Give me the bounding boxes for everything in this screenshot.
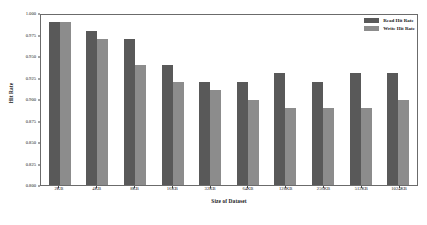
y-axis-tick-label: 0.850: [26, 141, 36, 146]
bar[interactable]: [162, 65, 173, 185]
legend-item[interactable]: Write Hit Rate: [364, 26, 415, 31]
x-axis-tick-label: 16KB: [167, 187, 178, 192]
x-axis-tick-label: 32KB: [205, 187, 216, 192]
x-axis-tick-cell: 256KB: [305, 187, 343, 197]
bar[interactable]: [398, 100, 409, 185]
x-axis-tick-cell: 2KB: [40, 187, 78, 197]
y-axis-tick-label: 0.825: [26, 162, 36, 167]
x-axis-tick-cell: 8KB: [116, 187, 154, 197]
bar[interactable]: [135, 65, 146, 185]
bar[interactable]: [86, 31, 97, 185]
bar[interactable]: [387, 73, 398, 185]
x-axis-tick-label: 8KB: [130, 187, 139, 192]
x-axis-tick-cell: 128KB: [267, 187, 305, 197]
x-axis-tick-label: 1024KB: [391, 187, 407, 192]
x-axis-tick-cell: 32KB: [191, 187, 229, 197]
legend-label: Write Hit Rate: [383, 26, 415, 31]
y-axis-tick-label: 0.950: [26, 55, 36, 60]
bar-group: [79, 15, 117, 185]
x-axis-tick-cell: 64KB: [229, 187, 267, 197]
bar[interactable]: [248, 100, 259, 185]
legend-swatch: [364, 18, 379, 23]
y-axis-tick-labels: 0.8000.8250.8500.8750.9000.9250.9500.975…: [14, 14, 38, 186]
x-axis-tick-cell: 1024KB: [380, 187, 418, 197]
y-axis-tick-label: 1.000: [26, 12, 36, 17]
plot-area: [40, 14, 418, 186]
y-axis-tick-label: 0.975: [26, 33, 36, 38]
bar-group: [342, 15, 380, 185]
x-axis-tick-labels: 2KB4KB8KB16KB32KB64KB128KB256KB512KB1024…: [40, 187, 418, 197]
chart-legend: Read Hit RateWrite Hit Rate: [364, 18, 415, 31]
bar[interactable]: [361, 108, 372, 185]
bar[interactable]: [312, 82, 323, 185]
bar-group: [116, 15, 154, 185]
x-axis-tick-cell: 16KB: [153, 187, 191, 197]
bar[interactable]: [199, 82, 210, 185]
bar-group: [191, 15, 229, 185]
legend-swatch: [364, 26, 379, 31]
bars-layer: [41, 15, 417, 185]
bar[interactable]: [274, 73, 285, 185]
bar-group: [41, 15, 79, 185]
bar[interactable]: [124, 39, 135, 185]
bar[interactable]: [285, 108, 296, 185]
bar-group: [267, 15, 305, 185]
bar[interactable]: [350, 73, 361, 185]
bar[interactable]: [323, 108, 334, 185]
bar[interactable]: [210, 90, 221, 185]
bar-group: [154, 15, 192, 185]
bar[interactable]: [237, 82, 248, 185]
x-axis-title: Size of Dataset: [40, 198, 418, 204]
legend-label: Read Hit Rate: [383, 18, 414, 23]
bar-group: [229, 15, 267, 185]
y-axis-tick-label: 0.900: [26, 98, 36, 103]
bar[interactable]: [173, 82, 184, 185]
bar-chart-figure: Hit Rate 0.8000.8250.8500.8750.9000.9250…: [0, 0, 427, 225]
x-axis-tick-cell: 512KB: [342, 187, 380, 197]
x-axis-tick-cell: 4KB: [78, 187, 116, 197]
y-axis-tick-label: 0.925: [26, 76, 36, 81]
bar[interactable]: [97, 39, 108, 185]
y-axis-tick-label: 0.875: [26, 119, 36, 124]
legend-item[interactable]: Read Hit Rate: [364, 18, 415, 23]
x-axis-tick-label: 128KB: [279, 187, 292, 192]
x-axis-tick-label: 256KB: [317, 187, 330, 192]
bar-group: [379, 15, 417, 185]
x-axis-tick-label: 2KB: [55, 187, 64, 192]
x-axis-tick-label: 4KB: [92, 187, 101, 192]
y-axis-tick-label: 0.800: [26, 184, 36, 189]
bar-group: [304, 15, 342, 185]
bar[interactable]: [49, 22, 60, 185]
bar[interactable]: [60, 22, 71, 185]
x-axis-tick-label: 64KB: [242, 187, 253, 192]
x-axis-tick-label: 512KB: [355, 187, 368, 192]
